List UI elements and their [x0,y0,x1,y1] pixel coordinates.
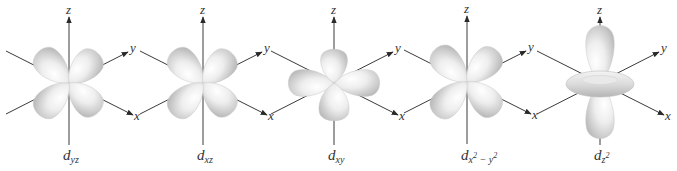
z-axis-label: z [65,2,71,17]
z-axis-label: z [596,2,602,17]
orbital-panel-dxz: zyxdxz [140,2,274,165]
y-axis-label: y [526,39,534,54]
orbital-panel-dx2-y2: zyxdx2 − y2 [404,1,538,165]
y-axis-label: y [262,40,270,55]
orbital-label: dz2 [594,147,609,165]
orbital-panel-dxy: zyxdxy [271,2,405,165]
orbital-label-subscript: xz [204,154,213,165]
z-axis-label: z [199,2,205,17]
y-axis-label: y [393,40,401,55]
orbital-torus [566,71,634,97]
torus-hole [582,76,618,85]
orbital-label-superscript-2: 2 [493,151,497,160]
x-axis-label: x [664,108,671,123]
orbital-label: dxz [197,147,213,165]
orbital-panel-dyz: zyxdyz [6,2,140,165]
orbital-label-superscript: 2 [605,151,609,160]
orbital-label: dx2 − y2 [461,147,497,165]
orbital-label-subscript: yz [70,154,79,165]
z-axis-label: z [330,2,336,17]
x-axis-label: x [267,108,274,123]
orbital-label: dyz [63,147,79,165]
orbital-label-subscript-2: − y [477,154,494,165]
y-axis-label: y [128,40,136,55]
orbital-label: dxy [328,147,345,165]
y-axis-label: y [659,40,667,55]
x-axis-label: x [133,108,140,123]
x-axis-label: x [531,107,538,122]
x-axis-label: x [398,108,405,123]
orbital-label-subscript: xy [335,154,345,165]
d-orbitals-figure: zyxdyz zyxdxz zyxdxy zyxdx2 − y2 zyxdz2 [0,0,677,171]
z-axis-label: z [463,1,469,16]
orbital-panel-dz2: zyxdz2 [537,2,671,165]
